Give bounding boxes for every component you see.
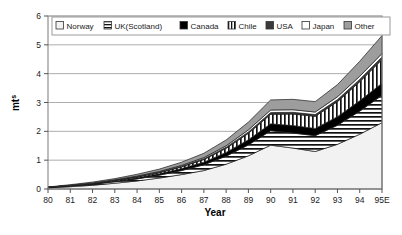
- chart-canvas: 0123456 80818283848586878889909192939495…: [0, 0, 402, 235]
- x-tick-label: 80: [43, 195, 53, 205]
- x-axis-tick-labels: 80818283848586878889909192939495E: [43, 195, 390, 205]
- x-tick-label: 92: [310, 195, 320, 205]
- legend: NorwayUK(Scotland)CanadaChileUSAJapanOth…: [52, 17, 390, 35]
- x-tick-label: 83: [110, 195, 120, 205]
- legend-label: Japan: [313, 22, 335, 31]
- legend-swatch: [302, 22, 310, 30]
- legend-swatch: [344, 22, 352, 30]
- x-tick-label: 94: [355, 195, 365, 205]
- x-tick-label: 85: [155, 195, 165, 205]
- x-tick-label: 81: [66, 195, 76, 205]
- x-tick-label: 89: [244, 195, 254, 205]
- x-tick-label: 93: [333, 195, 343, 205]
- y-tick-label: 4: [36, 69, 41, 79]
- legend-item-other[interactable]: Other: [344, 22, 375, 31]
- x-tick-label: 82: [88, 195, 98, 205]
- x-axis-title: Year: [204, 207, 225, 218]
- series-bands: [48, 36, 382, 189]
- x-tick-label: 88: [221, 195, 231, 205]
- y-tick-label: 5: [36, 40, 41, 50]
- x-tick-label: 86: [177, 195, 187, 205]
- x-tick-label: 84: [132, 195, 142, 205]
- legend-box: [52, 17, 390, 35]
- legend-item-usa[interactable]: USA: [266, 22, 294, 31]
- y-axis-tick-labels: 0123456: [36, 11, 41, 194]
- legend-item-japan[interactable]: Japan: [302, 22, 334, 31]
- legend-item-norway[interactable]: Norway: [56, 22, 94, 31]
- legend-label: Chile: [239, 22, 258, 31]
- legend-swatch: [228, 22, 236, 30]
- legend-item-canada[interactable]: Canada: [180, 22, 219, 31]
- stacked-area-chart: 0123456 80818283848586878889909192939495…: [0, 0, 402, 235]
- legend-label: UK(Scotland): [115, 22, 163, 31]
- legend-swatch: [266, 22, 274, 30]
- legend-label: Other: [355, 22, 375, 31]
- legend-label: Canada: [191, 22, 220, 31]
- y-axis-title: mts: [10, 95, 22, 111]
- legend-swatch: [180, 22, 188, 30]
- x-tick-label: 90: [266, 195, 276, 205]
- x-tick-label: 87: [199, 195, 209, 205]
- legend-swatch: [104, 22, 112, 30]
- y-tick-label: 2: [36, 126, 41, 136]
- legend-item-chile[interactable]: Chile: [228, 22, 257, 31]
- x-tick-label: 95E: [374, 195, 389, 205]
- legend-label: USA: [277, 22, 294, 31]
- y-tick-label: 3: [36, 98, 41, 108]
- legend-swatch: [56, 22, 64, 30]
- y-tick-label: 0: [36, 184, 41, 194]
- legend-label: Norway: [67, 22, 94, 31]
- y-tick-label: 6: [36, 11, 41, 21]
- x-tick-label: 91: [288, 195, 298, 205]
- y-tick-label: 1: [36, 155, 41, 165]
